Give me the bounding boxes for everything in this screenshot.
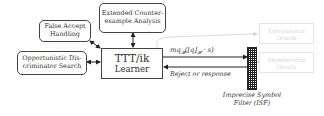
opportunistic-discriminator-search-box: Opportunistic Dis- criminator Search [17,51,87,75]
query-label: mq𝓗(⌊q⌋𝓗 · s) [170,46,214,55]
extended-counterexample-analysis-box: Extended Counter- example Analysis [99,3,166,33]
equivalence-line2: Oracle [268,34,305,41]
isf-grid-icon [247,47,257,90]
response-label: Reject or response [170,70,231,78]
counterexample-line2: example Analysis [102,18,163,26]
discriminator-line2: criminator Search [22,63,81,71]
membership-line2: Oracle [267,63,305,70]
false-accept-handling-box: False Accept Handling [39,20,91,42]
false-accept-line2: Handling [44,31,85,39]
membership-line1: Membership [267,56,305,63]
learner-subtitle: Learner [115,64,149,75]
membership-oracle-box: Membership Oracle [259,52,314,73]
learner-title: TTT/ik [115,52,150,64]
equivalence-line1: Equivalence [268,27,305,34]
isf-label: Imprecise Symbol Filter (ISF) [217,91,287,107]
equivalence-oracle-box: Equivalence Oracle [259,23,314,44]
isf-label-line1: Imprecise Symbol [217,91,287,99]
edge-falseaccept-learner [90,41,100,48]
isf-label-line2: Filter (ISF) [217,99,287,107]
ttt-ik-learner-box: TTT/ik Learner [101,48,163,79]
